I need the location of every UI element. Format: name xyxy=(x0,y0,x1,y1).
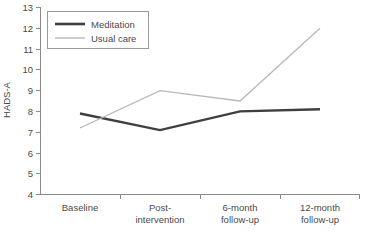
y-tick-label: 7 xyxy=(28,127,33,138)
x-axis-category-labels: Baseline Post- intervention 6-month foll… xyxy=(62,202,340,225)
x-tick-label-12-month-line2: follow-up xyxy=(301,214,339,225)
x-tick-label-12-month-line1: 12-month xyxy=(300,202,340,213)
y-tick-label: 5 xyxy=(28,168,33,179)
chart-container: 13 12 11 10 9 8 7 6 5 4 HADS-A Baseline … xyxy=(0,0,368,234)
x-tick-label-6-month-line2: follow-up xyxy=(221,214,259,225)
legend: Meditation Usual care xyxy=(48,12,149,49)
x-tick-label-post-intervention-line1: Post- xyxy=(149,202,171,213)
y-axis-ticks xyxy=(36,8,40,195)
y-tick-label: 8 xyxy=(28,106,33,117)
legend-label-usual-care: Usual care xyxy=(91,33,136,44)
y-tick-label: 11 xyxy=(23,44,33,55)
y-tick-label: 12 xyxy=(22,23,33,34)
y-tick-label: 6 xyxy=(28,148,33,159)
y-tick-label: 13 xyxy=(22,2,33,13)
y-axis-tick-labels: 13 12 11 10 9 8 7 6 5 4 xyxy=(22,2,33,200)
line-chart: 13 12 11 10 9 8 7 6 5 4 HADS-A Baseline … xyxy=(0,0,368,234)
series-layer xyxy=(80,28,320,130)
x-tick-label-6-month-line1: 6-month xyxy=(223,202,258,213)
legend-label-meditation: Meditation xyxy=(91,19,135,30)
y-tick-label: 4 xyxy=(28,189,33,200)
x-tick-label-baseline: Baseline xyxy=(62,202,98,213)
y-tick-label: 9 xyxy=(28,85,33,96)
y-tick-label: 10 xyxy=(22,64,33,75)
x-tick-label-post-intervention-line2: intervention xyxy=(135,214,184,225)
y-axis-title: HADS-A xyxy=(1,81,12,118)
series-line-meditation xyxy=(80,109,320,130)
